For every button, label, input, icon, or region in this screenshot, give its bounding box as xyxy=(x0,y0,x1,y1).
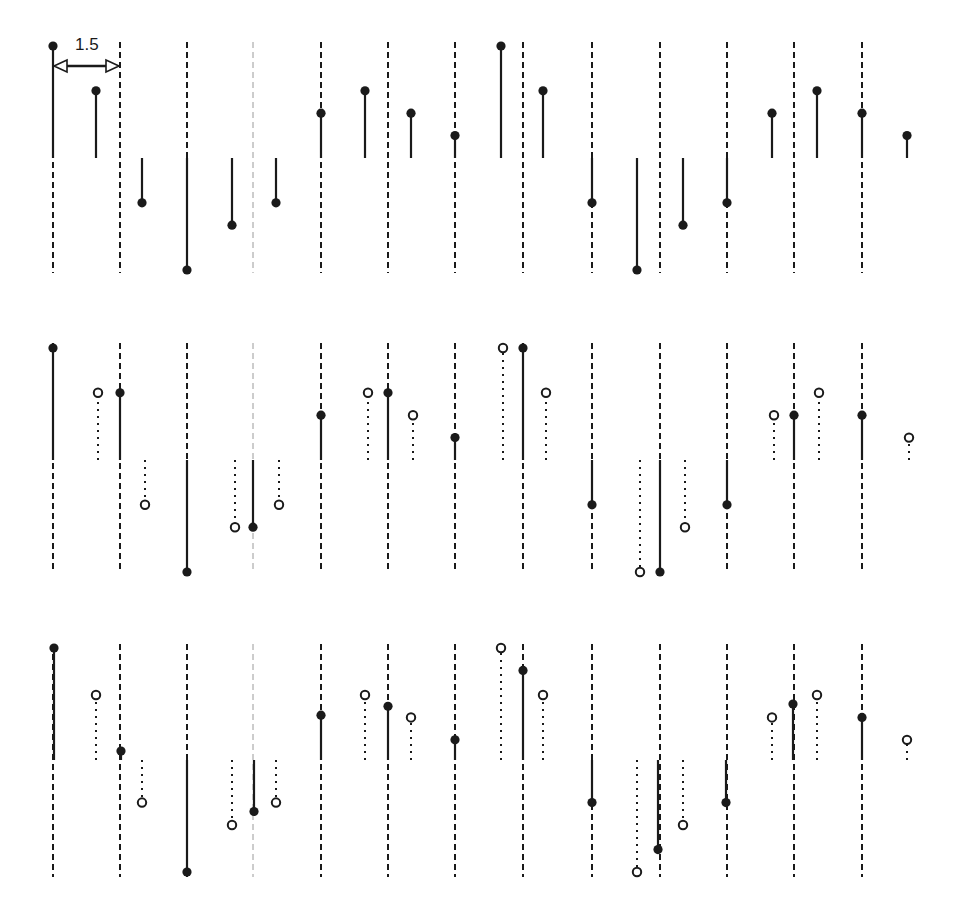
filled-marker xyxy=(518,666,527,675)
filled-marker xyxy=(587,198,596,207)
filled-marker xyxy=(316,411,325,420)
filled-marker xyxy=(632,265,641,274)
hollow-marker xyxy=(768,713,776,721)
filled-marker xyxy=(538,86,547,95)
hollow-marker xyxy=(361,691,369,699)
hollow-marker xyxy=(228,821,236,829)
filled-marker xyxy=(587,798,596,807)
arrow-head-right-icon xyxy=(106,60,119,72)
hollow-marker xyxy=(497,644,505,652)
hollow-marker xyxy=(364,389,372,397)
filled-marker xyxy=(722,500,731,509)
dashed-grid-lines xyxy=(53,42,862,877)
filled-marker xyxy=(678,221,687,230)
filled-marker xyxy=(902,131,911,140)
hollow-marker xyxy=(275,501,283,509)
filled-marker xyxy=(722,198,731,207)
filled-marker xyxy=(182,265,191,274)
hollow-marker xyxy=(407,713,415,721)
hollow-marker xyxy=(141,501,149,509)
filled-marker xyxy=(450,131,459,140)
filled-marker xyxy=(857,411,866,420)
spacing-annotation xyxy=(54,60,119,72)
filled-marker xyxy=(137,198,146,207)
filled-marker xyxy=(655,567,664,576)
hollow-marker xyxy=(272,798,280,806)
filled-marker xyxy=(227,221,236,230)
filled-marker xyxy=(789,411,798,420)
filled-marker xyxy=(249,807,258,816)
hollow-marker xyxy=(633,868,641,876)
hollow-marker xyxy=(813,691,821,699)
hollow-marker xyxy=(94,389,102,397)
filled-marker xyxy=(48,343,57,352)
filled-marker xyxy=(116,746,125,755)
hollow-marker xyxy=(905,433,913,441)
filled-marker xyxy=(115,388,124,397)
hollow-marker xyxy=(542,389,550,397)
filled-marker xyxy=(383,702,392,711)
filled-marker xyxy=(48,41,57,50)
filled-marker xyxy=(496,41,505,50)
hollow-marker xyxy=(679,821,687,829)
hollow-marker xyxy=(92,691,100,699)
filled-marker xyxy=(248,523,257,532)
hollow-marker xyxy=(636,568,644,576)
filled-marker xyxy=(653,845,662,854)
filled-marker xyxy=(316,711,325,720)
filled-marker xyxy=(450,735,459,744)
filled-marker xyxy=(767,109,776,118)
hollow-marker xyxy=(815,389,823,397)
hollow-marker xyxy=(903,736,911,744)
filled-marker xyxy=(406,109,415,118)
filled-marker xyxy=(857,713,866,722)
stems xyxy=(48,41,913,876)
hollow-marker xyxy=(138,798,146,806)
filled-marker xyxy=(518,343,527,352)
spacing-label: 1.5 xyxy=(75,35,99,55)
filled-marker xyxy=(182,567,191,576)
filled-marker xyxy=(91,86,100,95)
hollow-marker xyxy=(539,691,547,699)
stem-diagram xyxy=(0,0,956,904)
hollow-marker xyxy=(681,523,689,531)
hollow-marker xyxy=(409,411,417,419)
hollow-marker xyxy=(499,344,507,352)
filled-marker xyxy=(587,500,596,509)
filled-marker xyxy=(857,109,866,118)
filled-marker xyxy=(383,388,392,397)
filled-marker xyxy=(812,86,821,95)
filled-marker xyxy=(271,198,280,207)
filled-marker xyxy=(49,643,58,652)
filled-marker xyxy=(450,433,459,442)
filled-marker xyxy=(788,699,797,708)
hollow-marker xyxy=(231,523,239,531)
filled-marker xyxy=(316,109,325,118)
filled-marker xyxy=(721,798,730,807)
filled-marker xyxy=(360,86,369,95)
filled-marker xyxy=(182,867,191,876)
hollow-marker xyxy=(770,411,778,419)
arrow-head-left-icon xyxy=(54,60,67,72)
